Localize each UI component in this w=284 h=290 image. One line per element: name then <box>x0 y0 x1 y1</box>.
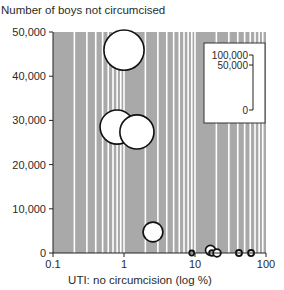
bubble <box>120 115 154 149</box>
size-legend-label-50000: 50,000 <box>217 60 248 71</box>
x-tick-label: 100 <box>257 258 275 270</box>
x-tick-label: 10 <box>189 258 201 270</box>
y-axis: 010,00020,00030,00040,00050,000 <box>12 26 53 259</box>
x-tick-label: 1 <box>121 258 127 270</box>
y-tick-label: 10,000 <box>12 203 46 215</box>
bubble <box>143 222 163 242</box>
y-tick-label: 40,000 <box>12 70 46 82</box>
y-axis-title: Number of boys not circumcised <box>1 4 165 16</box>
bubble-chart: Number of boys not circumcised 010,00020… <box>0 0 284 290</box>
y-tick-label: 30,000 <box>12 114 46 126</box>
y-tick-label: 50,000 <box>12 26 46 38</box>
y-tick-label: 20,000 <box>12 159 46 171</box>
x-tick-label: 0.1 <box>45 258 60 270</box>
bubble <box>104 30 144 70</box>
size-legend: 100,000 50,000 0 <box>204 43 265 123</box>
size-legend-label-0: 0 <box>242 105 248 116</box>
x-axis-title: UTI: no circumcision (log %) <box>68 274 212 286</box>
